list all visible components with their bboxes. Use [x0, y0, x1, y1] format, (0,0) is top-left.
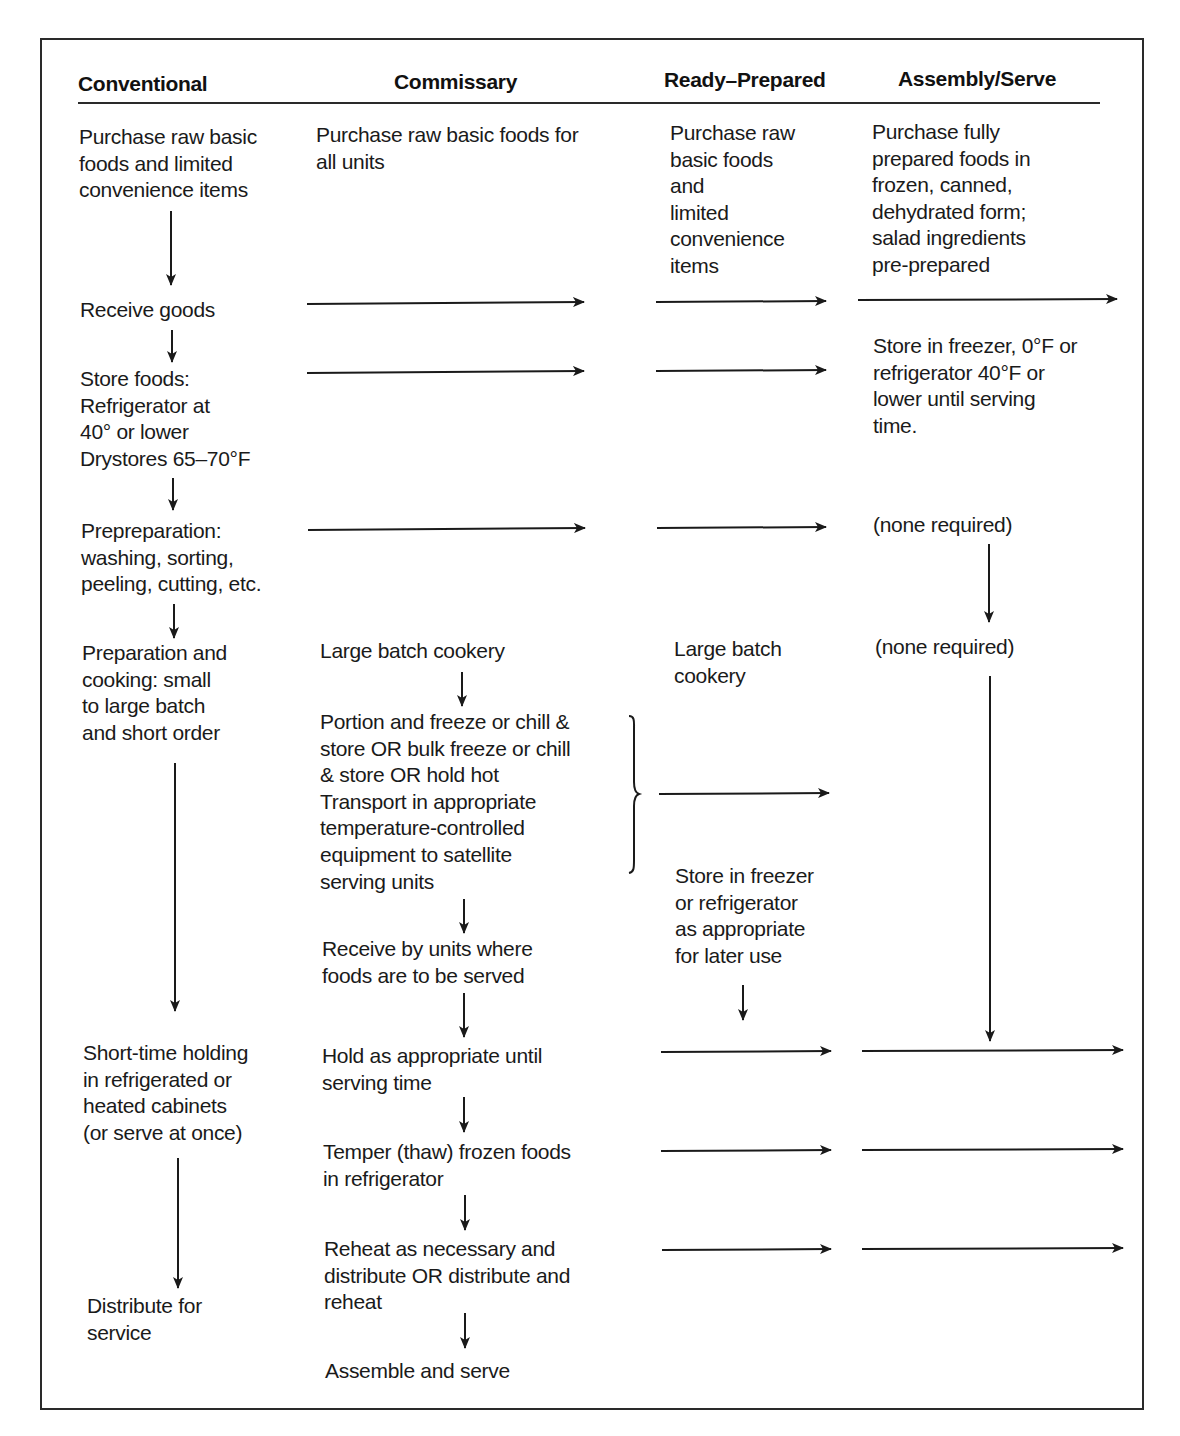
arrow-right-icon: [662, 1249, 831, 1250]
arrow-right-icon: [661, 1051, 831, 1052]
arrow-right-icon: [862, 1248, 1123, 1249]
arrow-right-icon: [307, 302, 584, 304]
arrow-right-icon: [862, 1149, 1123, 1150]
arrow-right-icon: [862, 1050, 1123, 1051]
bracket-icon: [629, 716, 639, 873]
arrow-right-icon: [656, 370, 826, 371]
arrow-right-icon: [661, 1150, 831, 1151]
arrow-right-icon: [307, 371, 584, 373]
arrow-right-icon: [657, 527, 826, 528]
arrow-right-icon: [858, 299, 1117, 300]
flow-arrows: [0, 0, 1180, 1436]
arrow-right-icon: [308, 528, 585, 530]
arrow-right-icon: [659, 793, 829, 794]
arrow-right-icon: [656, 301, 826, 302]
